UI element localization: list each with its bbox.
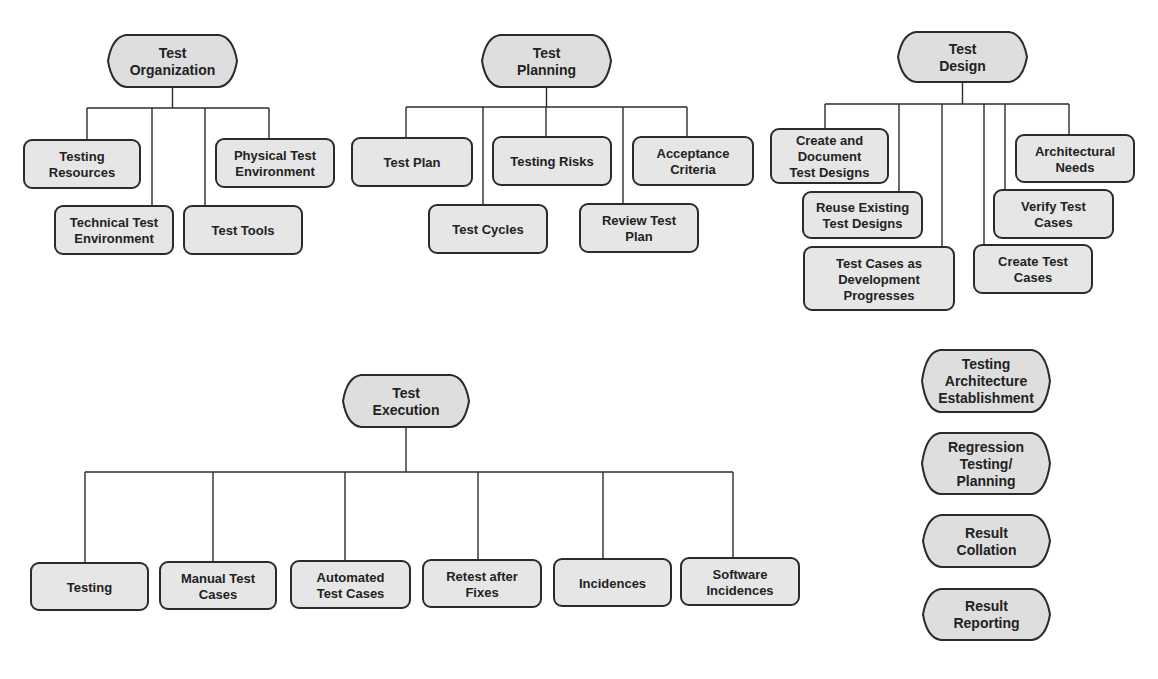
node-label-line: Reuse Existing <box>816 200 909 215</box>
node-testing-risks: Testing Risks <box>493 137 611 185</box>
node-label-line: Cases <box>1014 270 1052 285</box>
node-label-line: Software <box>713 567 768 582</box>
box-shape <box>55 206 173 254</box>
node-label-line: Progresses <box>844 288 915 303</box>
box-shape <box>803 192 922 238</box>
node-label-line: Test Tools <box>211 223 274 238</box>
node-label-line: Organization <box>130 62 216 78</box>
node-label-line: Execution <box>373 402 440 418</box>
node-label-line: Environment <box>74 231 154 246</box>
node-label-line: Technical Test <box>70 215 159 230</box>
node-label-line: Cases <box>1034 215 1072 230</box>
node-acceptance-criteria: AcceptanceCriteria <box>633 137 753 185</box>
node-label-line: Document <box>798 149 862 164</box>
node-reuse-existing-test-designs: Reuse ExistingTest Designs <box>803 192 922 238</box>
node-label-line: Development <box>838 272 920 287</box>
node-label-line: Test Designs <box>823 216 903 231</box>
node-label-line: Result <box>965 525 1008 541</box>
node-layer: TestOrganizationTestingResourcesTechnica… <box>24 32 1134 640</box>
node-label-line: Architecture <box>945 373 1028 389</box>
node-incidences: Incidences <box>554 559 671 606</box>
node-software-incidences: SoftwareIncidences <box>681 558 799 605</box>
node-label-line: Automated <box>317 570 385 585</box>
node-label-line: Test <box>159 45 187 61</box>
testing-architecture-establishment-node: TestingArchitectureEstablishment <box>922 350 1050 412</box>
node-label-line: Incidences <box>579 576 646 591</box>
node-label-line: Test Cycles <box>452 222 523 237</box>
node-label-line: Test <box>533 45 561 61</box>
node-label-line: Environment <box>235 164 315 179</box>
node-label-line: Reporting <box>953 615 1019 631</box>
node-create-test-cases: Create TestCases <box>974 245 1092 293</box>
node-label-line: Retest after <box>446 569 518 584</box>
node-label-line: Planning <box>956 473 1015 489</box>
test-execution-root-node: TestExecution <box>343 375 469 427</box>
node-testing-resources: TestingResources <box>24 140 140 188</box>
node-label-line: Testing <box>962 356 1011 372</box>
node-create-and-document-test-designs: Create andDocumentTest Designs <box>771 129 888 183</box>
node-label-line: Testing <box>67 580 112 595</box>
box-shape <box>1016 135 1134 182</box>
node-label-line: Fixes <box>465 585 498 600</box>
node-technical-test-environment: Technical TestEnvironment <box>55 206 173 254</box>
node-test-cases-as-development-progresses: Test Cases asDevelopmentProgresses <box>804 247 954 310</box>
node-label-line: Test Cases <box>317 586 385 601</box>
node-label-line: Establishment <box>938 390 1034 406</box>
node-label-line: Acceptance <box>657 146 730 161</box>
node-test-plan: Test Plan <box>352 138 472 186</box>
result-reporting-node: ResultReporting <box>923 589 1050 640</box>
test-execution-connectors <box>85 427 733 563</box>
node-label-line: Plan <box>625 229 653 244</box>
node-label-line: Incidences <box>706 583 773 598</box>
node-testing: Testing <box>31 563 148 610</box>
node-review-test-plan: Review TestPlan <box>580 204 698 252</box>
node-verify-test-cases: Verify TestCases <box>994 190 1113 238</box>
box-shape <box>216 139 334 187</box>
node-label-line: Design <box>939 58 986 74</box>
node-test-tools: Test Tools <box>184 206 302 254</box>
box-shape <box>633 137 753 185</box>
node-manual-test-cases: Manual TestCases <box>160 562 276 609</box>
node-label-line: Test Designs <box>790 165 870 180</box>
node-label-line: Create Test <box>998 254 1069 269</box>
box-shape <box>160 562 276 609</box>
node-label-line: Create and <box>796 133 863 148</box>
node-label-line: Cases <box>199 587 237 602</box>
box-shape <box>994 190 1113 238</box>
result-collation-node: ResultCollation <box>923 515 1050 567</box>
box-shape <box>681 558 799 605</box>
node-label-line: Test Cases as <box>836 256 922 271</box>
box-shape <box>24 140 140 188</box>
node-label-line: Architectural <box>1035 144 1115 159</box>
node-automated-test-cases: AutomatedTest Cases <box>291 561 410 608</box>
node-label-line: Planning <box>517 62 576 78</box>
test-planning-root-node: TestPlanning <box>482 35 611 87</box>
process-diagram: TestOrganizationTestingResourcesTechnica… <box>0 0 1158 679</box>
node-label-line: Testing <box>59 149 104 164</box>
box-shape <box>974 245 1092 293</box>
node-label-line: Testing/ <box>960 456 1013 472</box>
node-physical-test-environment: Physical TestEnvironment <box>216 139 334 187</box>
node-label-line: Regression <box>948 439 1024 455</box>
node-label-line: Result <box>965 598 1008 614</box>
box-shape <box>423 560 541 607</box>
node-label-line: Collation <box>957 542 1017 558</box>
node-label-line: Verify Test <box>1021 199 1086 214</box>
node-label-line: Manual Test <box>181 571 256 586</box>
node-label-line: Physical Test <box>234 148 317 163</box>
node-retest-after-fixes: Retest afterFixes <box>423 560 541 607</box>
test-organization-root-node: TestOrganization <box>108 35 237 87</box>
node-label-line: Test Plan <box>384 155 441 170</box>
node-label-line: Criteria <box>670 162 716 177</box>
node-label-line: Test <box>392 385 420 401</box>
node-label-line: Test <box>949 41 977 57</box>
node-architectural-needs: ArchitecturalNeeds <box>1016 135 1134 182</box>
node-label-line: Needs <box>1055 160 1094 175</box>
regression-testing-planning-node: RegressionTesting/Planning <box>922 433 1050 494</box>
node-label-line: Review Test <box>602 213 677 228</box>
node-label-line: Testing Risks <box>510 154 594 169</box>
box-shape <box>291 561 410 608</box>
node-label-line: Resources <box>49 165 115 180</box>
test-design-root-node: TestDesign <box>898 32 1027 82</box>
node-test-cycles: Test Cycles <box>429 205 547 253</box>
